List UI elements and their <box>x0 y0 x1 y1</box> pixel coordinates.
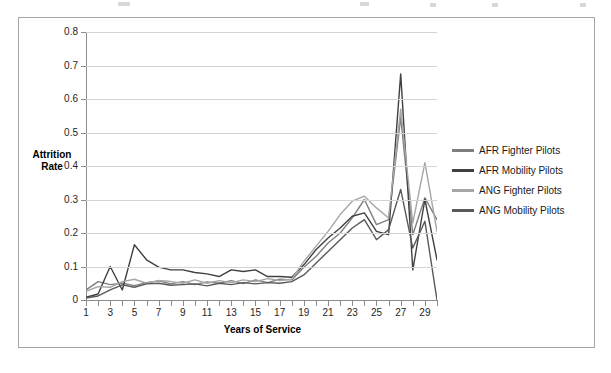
x-tick-label: 17 <box>269 308 291 318</box>
chart-legend: AFR Fighter PilotsAFR Mobility PilotsANG… <box>452 141 592 221</box>
x-tick-label: 19 <box>293 308 315 318</box>
x-tick-label: 11 <box>196 308 218 318</box>
x-tick-label: 29 <box>414 308 436 318</box>
y-tick-label: 0.2 <box>52 228 78 238</box>
x-tick-label: 23 <box>341 308 363 318</box>
legend-item[interactable]: ANG Fighter Pilots <box>452 181 592 199</box>
x-tick-label: 1 <box>75 308 97 318</box>
x-tick-mark <box>413 301 414 306</box>
x-tick-mark <box>171 301 172 306</box>
x-tick-mark <box>292 301 293 306</box>
x-tick-label: 9 <box>172 308 194 318</box>
x-tick-mark <box>110 301 111 306</box>
x-axis-title-text: Years of Service <box>224 324 301 335</box>
y-tick-label: 0.5 <box>52 128 78 138</box>
gridline <box>86 66 437 67</box>
gridline <box>86 233 437 234</box>
legend-label: ANG Fighter Pilots <box>479 185 562 196</box>
x-tick-label: 5 <box>123 308 145 318</box>
x-tick-mark <box>207 301 208 306</box>
x-tick-mark <box>389 301 390 306</box>
legend-item[interactable]: AFR Fighter Pilots <box>452 141 592 159</box>
gridline <box>86 99 437 100</box>
series-line <box>86 74 437 297</box>
y-tick-label: 0.3 <box>52 195 78 205</box>
gridline <box>86 133 437 134</box>
gridline <box>86 166 437 167</box>
legend-label: AFR Fighter Pilots <box>479 145 560 156</box>
y-tick-label: 0.4 <box>52 161 78 171</box>
x-tick-mark <box>134 301 135 306</box>
x-tick-label: 25 <box>365 308 387 318</box>
x-tick-mark <box>98 301 99 306</box>
x-tick-mark <box>231 301 232 306</box>
legend-line-icon <box>452 169 474 172</box>
chart-canvas: Attrition Rate 00.10.20.30.40.50.60.70.8… <box>0 0 611 373</box>
x-tick-mark <box>195 301 196 306</box>
x-tick-label: 13 <box>220 308 242 318</box>
gridline <box>86 200 437 201</box>
x-tick-mark <box>255 301 256 306</box>
x-tick-label: 15 <box>244 308 266 318</box>
x-tick-mark <box>122 301 123 306</box>
x-tick-label: 3 <box>99 308 121 318</box>
y-tick-label: 0.1 <box>52 262 78 272</box>
x-tick-mark <box>425 301 426 306</box>
legend-line-icon <box>452 189 474 192</box>
y-tick-label: 0.6 <box>52 94 78 104</box>
x-tick-label: 27 <box>390 308 412 318</box>
x-tick-mark <box>183 301 184 306</box>
plot-area <box>86 32 437 300</box>
x-axis-line <box>86 300 438 301</box>
y-tick-label: 0.7 <box>52 61 78 71</box>
x-tick-label: 7 <box>148 308 170 318</box>
series-line <box>86 117 437 290</box>
x-tick-mark <box>352 301 353 306</box>
legend-line-icon <box>452 209 474 212</box>
x-tick-mark <box>304 301 305 306</box>
y-tick-label: 0 <box>52 295 78 305</box>
gridline <box>86 267 437 268</box>
x-tick-mark <box>437 301 438 306</box>
x-axis-title: Years of Service <box>175 324 350 335</box>
legend-line-icon <box>452 149 474 152</box>
x-tick-mark <box>219 301 220 306</box>
x-tick-mark <box>147 301 148 306</box>
x-tick-mark <box>401 301 402 306</box>
x-tick-mark <box>159 301 160 306</box>
x-tick-label: 21 <box>317 308 339 318</box>
x-tick-mark <box>376 301 377 306</box>
legend-item[interactable]: AFR Mobility Pilots <box>452 161 592 179</box>
gridline <box>86 32 437 33</box>
x-tick-mark <box>86 301 87 306</box>
x-tick-mark <box>280 301 281 306</box>
x-tick-mark <box>268 301 269 306</box>
series-line <box>86 189 437 300</box>
legend-label: AFR Mobility Pilots <box>479 165 563 176</box>
legend-item[interactable]: ANG Mobility Pilots <box>452 201 592 219</box>
x-tick-mark <box>243 301 244 306</box>
x-tick-mark <box>340 301 341 306</box>
x-tick-mark <box>316 301 317 306</box>
y-tick-label: 0.8 <box>52 27 78 37</box>
legend-label: ANG Mobility Pilots <box>479 205 565 216</box>
x-tick-mark <box>328 301 329 306</box>
x-tick-mark <box>364 301 365 306</box>
